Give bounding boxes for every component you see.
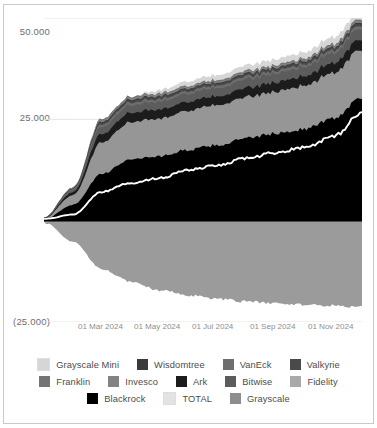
legend-row: BlackrockTOTALGrayscale [4, 390, 373, 407]
legend-row: FranklinInvescoArkBitwiseFidelity [4, 373, 373, 390]
legend-swatch-icon [108, 376, 119, 387]
legend-label: Wisdomtree [154, 360, 205, 370]
stacked-area-chart [44, 18, 362, 322]
legend-label: Blackrock [104, 394, 145, 404]
legend-item-valkyrie[interactable]: Valkyrie [290, 359, 340, 370]
legend-label: Grayscale [247, 394, 290, 404]
legend-item-bitwise[interactable]: Bitwise [225, 376, 272, 387]
legend-label: Bitwise [242, 377, 272, 387]
legend-item-grayscale-mini[interactable]: Grayscale Mini [37, 358, 119, 371]
legend-label: Invesco [125, 377, 158, 387]
legend-label: VanEck [240, 360, 272, 370]
x-tick-label-0: 01 Mar 2024 [78, 322, 123, 331]
legend-row: Grayscale MiniWisdomtreeVanEckValkyrie [4, 356, 373, 373]
legend-swatch-icon [163, 392, 176, 405]
x-tick-label-2: 01 Jul 2024 [192, 322, 233, 331]
legend-label: TOTAL [182, 394, 212, 404]
legend-item-total[interactable]: TOTAL [163, 392, 212, 405]
legend-label: Valkyrie [307, 360, 340, 370]
legend-item-invesco[interactable]: Invesco [108, 376, 158, 387]
legend-swatch-icon [225, 376, 236, 387]
legend-label: Fidelity [307, 377, 337, 387]
x-tick-label-3: 01 Sep 2024 [250, 322, 295, 331]
legend-swatch-icon [87, 393, 98, 404]
x-tick-label-1: 01 May 2024 [134, 322, 180, 331]
legend-swatch-icon [176, 376, 187, 387]
legend-item-blackrock[interactable]: Blackrock [87, 393, 145, 404]
legend-label: Franklin [56, 377, 90, 387]
legend-swatch-icon [37, 358, 50, 371]
legend-swatch-icon [230, 393, 241, 404]
legend-swatch-icon [137, 359, 148, 370]
chart-legend: Grayscale MiniWisdomtreeVanEckValkyrieFr… [4, 356, 373, 407]
legend-item-wisdomtree[interactable]: Wisdomtree [137, 359, 205, 370]
chart-screenshot: 50.000 25.000 0 (25.000) 01 Mar 2024 01 … [0, 0, 377, 428]
legend-item-franklin[interactable]: Franklin [39, 376, 90, 387]
legend-swatch-icon [223, 359, 234, 370]
legend-item-ark[interactable]: Ark [176, 376, 207, 387]
y-tick-label-minus-25000: (25.000) [0, 316, 50, 327]
legend-item-grayscale[interactable]: Grayscale [230, 393, 290, 404]
legend-swatch-icon [39, 376, 50, 387]
legend-label: Grayscale Mini [56, 360, 119, 370]
legend-item-fidelity[interactable]: Fidelity [290, 376, 337, 387]
legend-swatch-icon [290, 359, 301, 370]
plot-area [44, 18, 362, 322]
legend-swatch-icon [290, 376, 301, 387]
area-grayscale [44, 221, 362, 308]
legend-label: Ark [193, 377, 207, 387]
x-tick-label-4: 01 Nov 2024 [308, 322, 353, 331]
legend-item-vaneck[interactable]: VanEck [223, 359, 272, 370]
